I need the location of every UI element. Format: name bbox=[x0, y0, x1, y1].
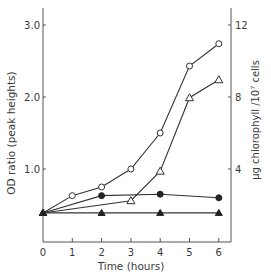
chart: 01234561.02.03.04812 Time (hours) OD rat… bbox=[0, 0, 271, 277]
y-tick-label: 3.0 bbox=[24, 20, 40, 31]
axis-frame bbox=[43, 8, 231, 242]
marker-open-circle bbox=[99, 184, 105, 190]
marker-open-circle bbox=[69, 193, 75, 199]
x-tick-label: 0 bbox=[40, 247, 46, 258]
x-tick-label: 6 bbox=[216, 247, 222, 258]
x-tick-label: 3 bbox=[128, 247, 134, 258]
x-tick-label: 2 bbox=[98, 247, 104, 258]
y2-tick-label: 12 bbox=[235, 20, 248, 31]
marker-filled-circle bbox=[157, 191, 163, 197]
marker-filled-circle bbox=[99, 193, 105, 199]
axes: 01234561.02.03.04812 bbox=[24, 8, 248, 258]
marker-open-circle bbox=[187, 63, 193, 69]
plot-area bbox=[40, 41, 223, 216]
series-line-open-circles bbox=[43, 44, 219, 213]
x-axis-label: Time (hours) bbox=[97, 260, 165, 272]
y-axis-label: OD ratio (peak heights) bbox=[5, 71, 17, 194]
y-tick-label: 2.0 bbox=[24, 92, 40, 103]
marker-open-circle bbox=[216, 41, 222, 47]
x-tick-label: 4 bbox=[157, 247, 163, 258]
marker-open-circle bbox=[157, 130, 163, 136]
marker-open-triangle bbox=[215, 76, 223, 83]
chart-svg: 01234561.02.03.04812 Time (hours) OD rat… bbox=[0, 0, 271, 277]
y-tick-label: 1.0 bbox=[24, 164, 40, 175]
x-tick-label: 1 bbox=[69, 247, 75, 258]
marker-filled-circle bbox=[216, 195, 222, 201]
marker-open-triangle bbox=[156, 167, 164, 174]
marker-open-circle bbox=[128, 166, 134, 172]
y2-tick-label: 4 bbox=[235, 164, 241, 175]
y2-axis-label: µg chlorophyll /10⁷ cells bbox=[250, 60, 261, 180]
marker-open-triangle bbox=[186, 94, 194, 101]
x-tick-label: 5 bbox=[186, 247, 192, 258]
y2-tick-label: 8 bbox=[235, 92, 241, 103]
